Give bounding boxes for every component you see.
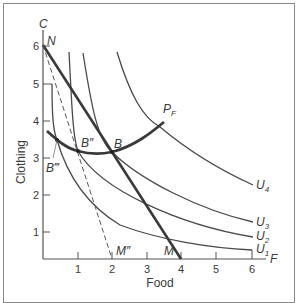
- y-tick-labels: 6 5 4 3 2 1: [33, 40, 39, 238]
- y-tick-1: 1: [33, 226, 39, 238]
- x-tick-6: 6: [249, 263, 255, 275]
- y-tick-3: 3: [33, 152, 39, 164]
- y-tick-2: 2: [33, 189, 39, 201]
- price-consumption-curve: [47, 122, 164, 154]
- x-tick-1: 1: [75, 263, 81, 275]
- y-axis-title: Clothing: [14, 140, 28, 184]
- x-tick-3: 3: [144, 263, 150, 275]
- y-tick-4: 4: [33, 115, 39, 127]
- x-tick-2: 2: [109, 263, 115, 275]
- y-tick-5: 5: [33, 78, 39, 90]
- label-n: N: [47, 34, 56, 48]
- b3-leader-line: [53, 140, 57, 158]
- x-axis-end-label: F: [270, 252, 278, 266]
- x-axis-title: Food: [146, 276, 173, 290]
- label-u4: U4: [256, 178, 270, 194]
- label-m: M: [164, 244, 174, 258]
- curve-u3: [83, 53, 253, 222]
- curve-u2: [69, 52, 253, 237]
- label-b3: B‴: [46, 161, 60, 175]
- y-ticks: [43, 46, 52, 232]
- label-pf: PF: [163, 102, 177, 118]
- y-tick-6: 6: [33, 40, 39, 52]
- x-tick-4: 4: [178, 263, 184, 275]
- x-tick-5: 5: [213, 263, 219, 275]
- point-b2: [76, 149, 80, 153]
- label-b2: B″: [81, 136, 94, 150]
- x-tick-labels: 1 2 3 4 5 6: [75, 263, 255, 275]
- curve-u4: [117, 52, 253, 185]
- label-b: B: [114, 137, 122, 151]
- label-m2: M″: [116, 244, 131, 258]
- y-axis-end-label: C: [39, 17, 48, 31]
